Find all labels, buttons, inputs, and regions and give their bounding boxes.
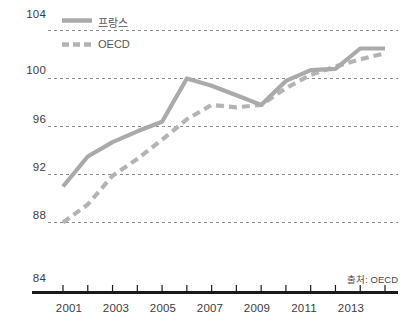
- y-tick-label-104: 104: [6, 8, 46, 20]
- x-axis-ticks: [63, 285, 385, 291]
- y-tick-label-100: 100: [6, 64, 46, 76]
- x-tick-label-2009: 2009: [237, 302, 277, 314]
- data-line-france: [63, 49, 385, 187]
- y-tick-label-84: 84: [6, 272, 46, 284]
- x-tick-label-2005: 2005: [143, 302, 183, 314]
- y-tick-label-96: 96: [6, 113, 46, 125]
- y-tick-label-92: 92: [6, 161, 46, 173]
- legend-label-oecd: OECD: [98, 38, 130, 50]
- y-tick-label-88: 88: [6, 209, 46, 221]
- legend-label-france: 프랑스: [98, 14, 128, 30]
- source-note: 출처: OECD: [347, 272, 398, 286]
- legend: [62, 21, 92, 45]
- x-tick-label-2013: 2013: [331, 302, 371, 314]
- x-tick-label-2003: 2003: [96, 302, 136, 314]
- x-tick-label-2001: 2001: [49, 302, 89, 314]
- x-tick-label-2011: 2011: [284, 302, 324, 314]
- x-tick-label-2007: 2007: [190, 302, 230, 314]
- line-chart-plot: [0, 0, 406, 333]
- chart-container: 104 100 96 92 88 84 2001 2003 2005 2007 …: [0, 0, 406, 333]
